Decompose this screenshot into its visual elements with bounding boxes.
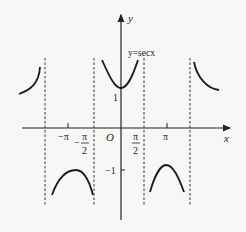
x-tick-neg-half-pi-den: 2 [82,145,87,156]
origin-label: O [106,131,114,143]
function-label: y=secx [128,48,155,58]
secant-graph: y x y=secx O −π π π − 2 π 2 1 −1 [0,0,246,232]
x-tick-neg-half-pi-sign: − [74,137,80,148]
x-axis-label: x [223,132,229,144]
x-tick-pi: π [163,131,168,142]
y-tick-one: 1 [113,92,118,103]
x-tick-half-pi-num: π [133,131,138,142]
y-axis-label: y [127,12,133,24]
x-tick-neg-pi: −π [58,131,69,142]
y-tick-neg-one: −1 [105,165,116,176]
x-tick-neg-half-pi-num: π [82,131,87,142]
x-tick-half-pi-den: 2 [133,145,138,156]
chart-canvas: y x y=secx O −π π π − 2 π 2 1 −1 [0,0,246,232]
